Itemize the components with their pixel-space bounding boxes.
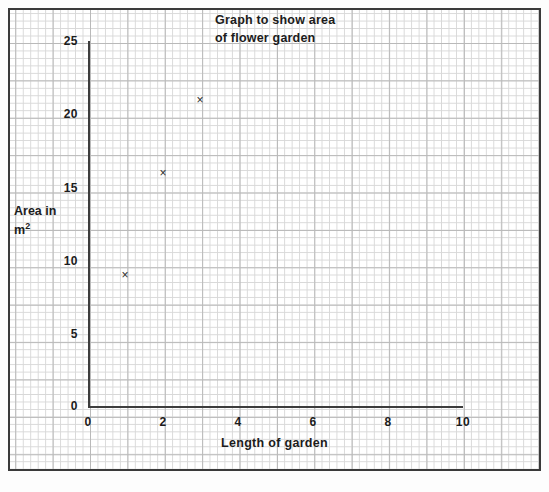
chart-title: Graph to show area of flower garden — [215, 11, 335, 47]
x-tick-label-8: 8 — [373, 415, 403, 429]
y-axis-line — [88, 41, 90, 408]
chart-title-line-2: of flower garden — [215, 29, 335, 47]
data-point-2: × — [157, 167, 170, 180]
y-axis-label-line-1: Area in — [14, 203, 56, 220]
y-tick-label-15: 15 — [38, 181, 78, 195]
chart-title-line-1: Graph to show area — [215, 11, 335, 29]
x-tick-label-0: 0 — [73, 415, 103, 429]
data-point-1: × — [119, 269, 132, 282]
y-tick-label-0: 0 — [38, 399, 78, 413]
y-tick-label-5: 5 — [38, 327, 78, 341]
y-tick-label-10: 10 — [38, 254, 78, 268]
x-tick-label-10: 10 — [448, 415, 478, 429]
x-axis-line — [88, 406, 463, 408]
graph-page: Graph to show area of flower garden 25 2… — [0, 0, 549, 492]
y-axis-label-line-2: m2 — [14, 220, 56, 239]
x-tick-label-6: 6 — [298, 415, 328, 429]
x-axis-label: Length of garden — [0, 436, 549, 450]
x-tick-label-4: 4 — [223, 415, 253, 429]
y-axis-label-unit: m — [14, 223, 25, 237]
y-tick-label-25: 25 — [38, 34, 78, 48]
y-tick-label-20: 20 — [38, 107, 78, 121]
x-tick-label-2: 2 — [148, 415, 178, 429]
y-axis-label: Area in m2 — [14, 203, 56, 239]
y-axis-label-exponent: 2 — [25, 221, 30, 231]
data-point-3: × — [194, 94, 207, 107]
